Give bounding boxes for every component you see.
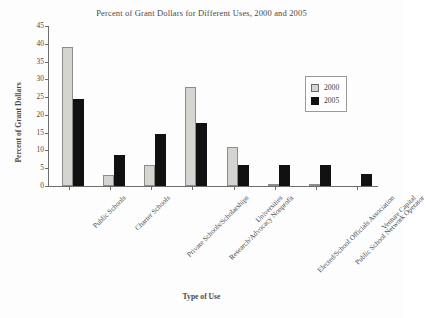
legend-item[interactable]: 2005 bbox=[311, 94, 339, 107]
y-tick-label: 20 bbox=[20, 111, 44, 118]
bar-group bbox=[268, 26, 290, 186]
bar-2005[interactable] bbox=[238, 165, 249, 186]
x-tick-mark bbox=[110, 186, 111, 190]
y-tick-label: 10 bbox=[20, 147, 44, 154]
legend-swatch-icon bbox=[311, 97, 319, 105]
x-axis-title: Type of Use bbox=[0, 292, 403, 301]
x-tick-mark bbox=[151, 186, 152, 190]
bar-2000[interactable] bbox=[144, 165, 155, 186]
bar-2005[interactable] bbox=[155, 134, 166, 186]
y-tick-label: 5 bbox=[20, 165, 44, 172]
x-tick-label: Charter Schools bbox=[133, 194, 171, 232]
y-axis-line bbox=[48, 26, 49, 187]
chart-legend: 20002005 bbox=[305, 76, 347, 112]
x-tick-mark bbox=[234, 186, 235, 190]
bar-2000[interactable] bbox=[185, 87, 196, 186]
y-tick-label: 30 bbox=[20, 76, 44, 83]
legend-label: 2005 bbox=[324, 97, 339, 105]
bar-group bbox=[227, 26, 249, 186]
y-tick-label: 15 bbox=[20, 129, 44, 136]
x-tick-mark bbox=[316, 186, 317, 190]
bar-group bbox=[350, 26, 372, 186]
bar-group bbox=[185, 26, 207, 186]
x-tick-mark bbox=[275, 186, 276, 190]
y-tick-mark bbox=[45, 97, 48, 98]
legend-label: 2000 bbox=[324, 84, 339, 92]
bar-2005[interactable] bbox=[114, 155, 125, 186]
bar-group bbox=[144, 26, 166, 186]
y-tick-mark bbox=[45, 115, 48, 116]
y-tick-mark bbox=[45, 79, 48, 80]
bar-group bbox=[103, 26, 125, 186]
legend-item[interactable]: 2000 bbox=[311, 81, 339, 94]
y-tick-mark bbox=[45, 26, 48, 27]
bar-2005[interactable] bbox=[361, 174, 372, 186]
y-tick-label: 25 bbox=[20, 93, 44, 100]
bar-2005[interactable] bbox=[279, 165, 290, 186]
y-tick-mark bbox=[45, 168, 48, 169]
x-tick-mark bbox=[357, 186, 358, 190]
x-axis-line bbox=[48, 186, 378, 187]
x-tick-label: Public Schools bbox=[91, 194, 127, 230]
legend-swatch-icon bbox=[311, 84, 319, 92]
bar-group bbox=[62, 26, 84, 186]
bar-2005[interactable] bbox=[73, 99, 84, 186]
y-tick-mark bbox=[45, 133, 48, 134]
chart-title: Percent of Grant Dollars for Different U… bbox=[0, 8, 403, 18]
x-tick-mark bbox=[192, 186, 193, 190]
bar-2000[interactable] bbox=[227, 147, 238, 186]
bar-2000[interactable] bbox=[62, 47, 73, 186]
y-tick-mark bbox=[45, 44, 48, 45]
y-tick-label: 45 bbox=[20, 22, 44, 29]
y-tick-label: 35 bbox=[20, 58, 44, 65]
x-tick-mark bbox=[69, 186, 70, 190]
bar-2000[interactable] bbox=[309, 184, 320, 186]
y-tick-label: 40 bbox=[20, 40, 44, 47]
y-tick-mark bbox=[45, 186, 48, 187]
bar-2000[interactable] bbox=[268, 184, 279, 186]
bar-2000[interactable] bbox=[103, 175, 114, 186]
bar-2005[interactable] bbox=[196, 123, 207, 186]
y-tick-label: 0 bbox=[20, 182, 44, 189]
bar-2005[interactable] bbox=[320, 165, 331, 186]
y-tick-mark bbox=[45, 150, 48, 151]
y-tick-mark bbox=[45, 62, 48, 63]
